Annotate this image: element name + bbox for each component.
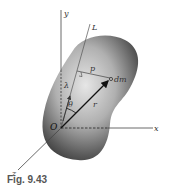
line-L-label: L [91, 23, 97, 32]
p-label: p [90, 64, 95, 73]
rigid-body-diagram: y x z L λ p dm r θ O [0, 0, 170, 191]
dm-label: dm [114, 75, 127, 84]
x-axis-label: x [154, 124, 159, 133]
figure-caption: Fig. 9.43 [7, 174, 47, 185]
y-axis-label: y [63, 9, 69, 18]
lambda-label: λ [63, 81, 69, 90]
theta-label: θ [68, 100, 73, 109]
origin-label: O [50, 122, 58, 132]
